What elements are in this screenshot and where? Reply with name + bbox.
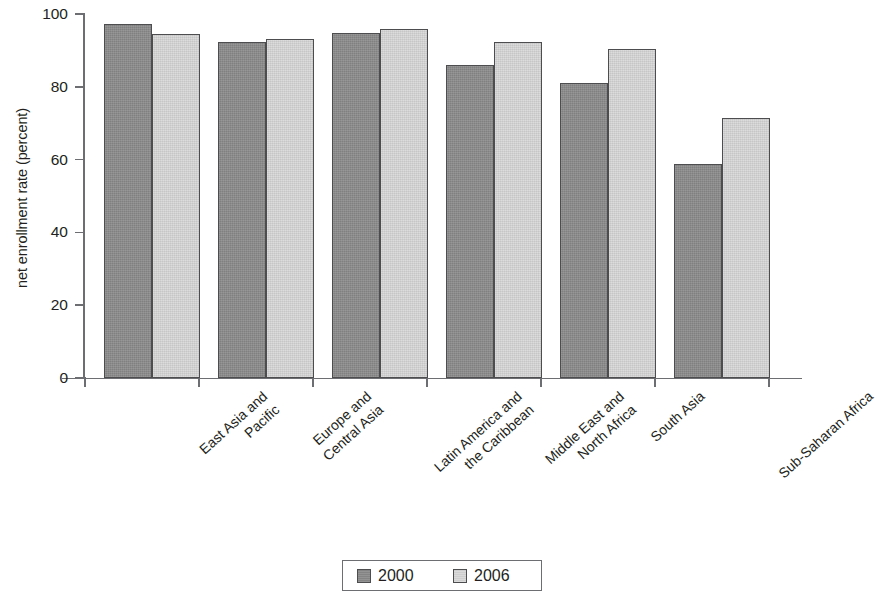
x-axis-category-label: Sub-Saharan Africa (775, 388, 877, 483)
x-axis-tick (198, 377, 200, 387)
y-axis-tick: 0 (75, 377, 84, 379)
y-axis-title: net enrollment rate (percent) (14, 38, 30, 358)
legend-swatch-icon-2000 (357, 569, 371, 583)
x-axis-category-label: East Asia andPacific (196, 388, 284, 472)
category-label-line-1: South Asia (647, 388, 707, 445)
bar-2006-1 (266, 39, 314, 378)
y-axis-tick-label: 60 (51, 151, 68, 169)
y-axis-tick: 80 (75, 86, 84, 88)
legend-swatch-icon-2006 (453, 569, 467, 583)
y-axis-tick: 60 (75, 159, 84, 161)
bar-2000-5 (674, 164, 722, 378)
x-axis-tick (84, 377, 86, 387)
x-axis-tick (768, 377, 770, 387)
bar-2000-1 (218, 42, 266, 378)
legend-item-2006: 2006 (453, 567, 510, 585)
x-axis-tick (540, 377, 542, 387)
x-axis-tick (654, 377, 656, 387)
bar-2006-5 (722, 118, 770, 378)
x-axis-category-label: Middle East andNorth Africa (542, 388, 641, 482)
bar-2006-0 (152, 34, 200, 378)
y-axis-tick-label: 40 (51, 223, 68, 241)
y-axis-tick: 40 (75, 232, 84, 234)
y-axis-tick-label: 0 (59, 369, 68, 387)
category-label-line-1: Sub-Saharan Africa (775, 388, 876, 481)
plot-area: 020406080100 (84, 14, 797, 378)
y-axis-tick-label: 100 (42, 5, 68, 23)
y-axis-tick-label: 20 (51, 296, 68, 314)
chart-legend: 2000 2006 (342, 560, 542, 591)
bar-2000-0 (104, 24, 152, 378)
x-axis-tick (312, 377, 314, 387)
y-axis-tick: 100 (75, 13, 84, 15)
y-axis-tick: 20 (75, 304, 84, 306)
bar-2006-2 (380, 29, 428, 378)
bar-2006-4 (608, 49, 656, 378)
x-axis-category-label: Europe andCentral Asia (307, 388, 387, 465)
x-axis-tick (426, 377, 428, 387)
x-axis-category-label: Latin America andthe Caribbean (431, 388, 538, 490)
legend-item-2000: 2000 (357, 567, 414, 585)
x-axis-category-label: South Asia (647, 388, 709, 446)
bar-2000-3 (446, 65, 494, 378)
legend-label-2000: 2000 (378, 567, 414, 585)
y-axis-tick-label: 80 (51, 78, 68, 96)
bar-2006-3 (494, 42, 542, 378)
legend-label-2006: 2006 (474, 567, 510, 585)
bar-2000-4 (560, 83, 608, 378)
bar-2000-2 (332, 33, 380, 378)
